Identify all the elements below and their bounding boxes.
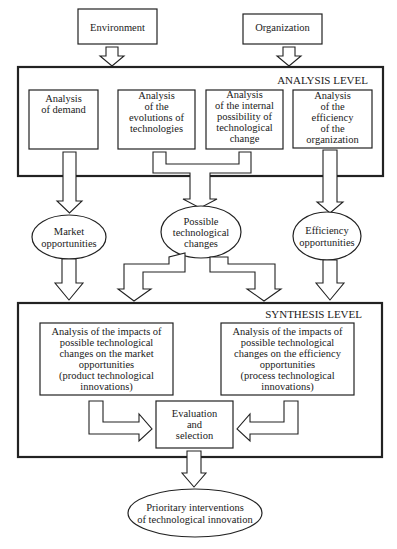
market-opportunities-node: Marketopportunities — [32, 215, 106, 259]
arrow-market-to-synthesis — [55, 259, 83, 300]
prioritary-interventions-node: Prioritary interventionsof technological… — [128, 489, 262, 537]
environment-label: Environment — [90, 22, 145, 33]
efficiency-impact-analysis-box: Analysis of the impacts ofpossible techn… — [221, 323, 354, 395]
analysis-internal-possibility-box: Analysisof the internalpossibility oftec… — [206, 89, 283, 149]
analysis-demand-box: Analysisof demand — [29, 90, 98, 149]
arrow-possible-changes-to-left — [118, 253, 185, 301]
organization-node: Organization — [243, 14, 322, 44]
synthesis-level-title: SYNTHESIS LEVEL — [265, 308, 362, 320]
analysis-level-title: ANALYSIS LEVEL — [277, 74, 368, 86]
arrow-efficiency-impact-to-evaluation — [237, 401, 298, 441]
arrow-efficiency-to-opportunities — [317, 150, 343, 213]
arrow-organization-down — [277, 47, 301, 66]
arrow-environment-down — [100, 47, 124, 66]
svg-text:Analysisof demand: Analysisof demand — [41, 93, 86, 115]
svg-text:Efficiencyopportunities: Efficiencyopportunities — [299, 225, 354, 248]
environment-node: Environment — [78, 9, 157, 44]
arrow-possible-changes-to-right — [210, 257, 281, 301]
analysis-technology-evolution-box: Analysisof theevolutions oftechnologies — [118, 90, 195, 149]
organization-label: Organization — [255, 22, 310, 33]
possible-technological-changes-node: Possibletechnologicalchanges — [161, 206, 241, 258]
arrow-market-impact-to-evaluation — [89, 401, 152, 441]
svg-text:Prioritary interventionsof tec: Prioritary interventionsof technological… — [137, 502, 253, 525]
arrow-merge-to-possible-changes — [153, 152, 251, 208]
arrow-efficiency-to-synthesis — [316, 260, 344, 300]
innovation-flow-diagram: Environment Organization ANALYSIS LEVEL … — [0, 0, 397, 549]
arrow-demand-to-market — [57, 152, 82, 213]
efficiency-opportunities-node: Efficiencyopportunities — [293, 212, 361, 260]
market-impact-analysis-box: Analysis of the impacts ofpossible techn… — [40, 323, 173, 395]
analysis-organization-efficiency-box: Analysisof theefficiencyof theorganizati… — [293, 90, 372, 148]
evaluation-selection-box: Evaluationandselection — [156, 401, 233, 448]
